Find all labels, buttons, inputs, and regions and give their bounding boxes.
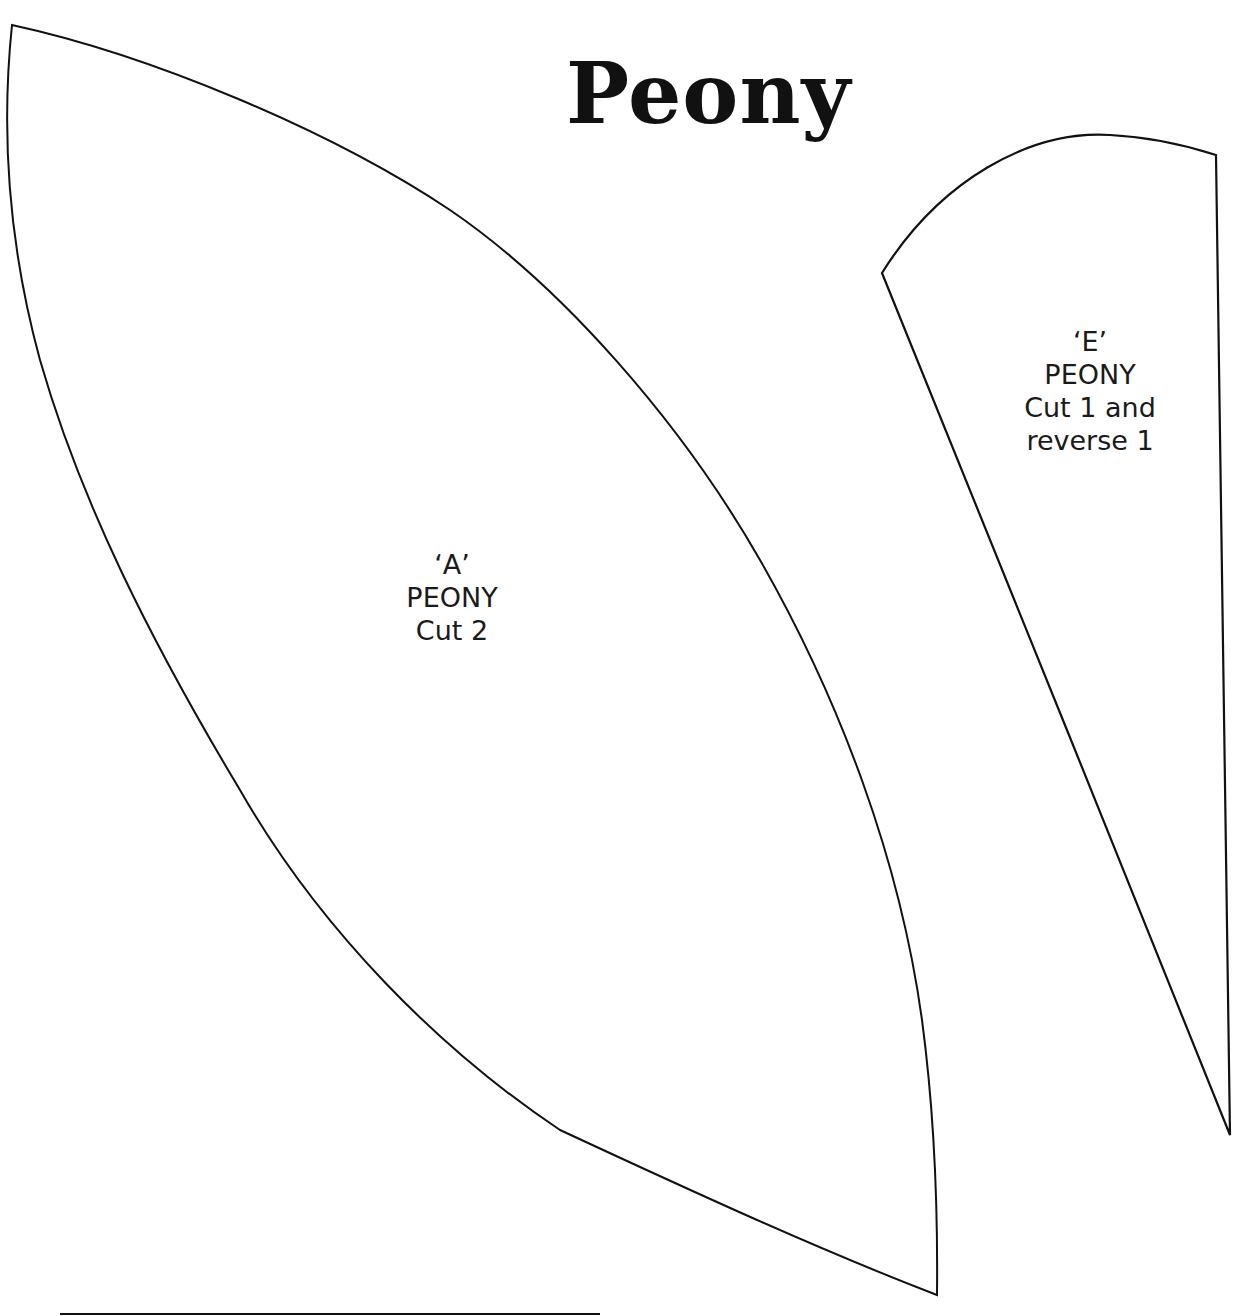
piece-e-name: PEONY: [990, 358, 1190, 391]
piece-e-label: ‘E’ PEONY Cut 1 and reverse 1: [990, 325, 1190, 457]
page-title: Peony: [566, 52, 851, 136]
piece-e-letter: ‘E’: [990, 325, 1190, 358]
piece-a-outline: [7, 25, 937, 1295]
piece-a-label: ‘A’ PEONY Cut 2: [352, 548, 552, 647]
piece-a-name: PEONY: [352, 581, 552, 614]
pattern-canvas: [0, 0, 1244, 1316]
piece-e-instructions-1: Cut 1 and: [990, 391, 1190, 424]
piece-a-letter: ‘A’: [352, 548, 552, 581]
piece-e-outline: [882, 135, 1230, 1135]
piece-e-instructions-2: reverse 1: [990, 424, 1190, 457]
piece-a-instructions: Cut 2: [352, 614, 552, 647]
